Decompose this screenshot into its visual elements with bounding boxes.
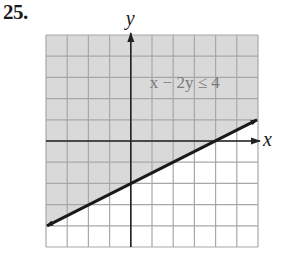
- inequality-graph: x − 2y ≤ 4 x y: [0, 0, 287, 257]
- y-axis-label: y: [124, 7, 135, 30]
- x-axis-label: x: [262, 128, 272, 150]
- inequality-label: x − 2y ≤ 4: [150, 73, 220, 92]
